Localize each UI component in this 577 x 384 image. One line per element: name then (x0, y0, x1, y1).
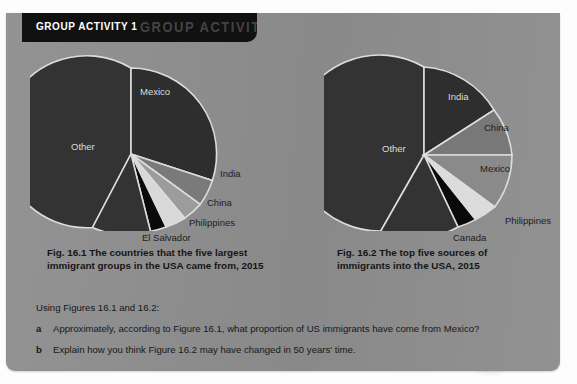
pie-label-mexico: Mexico (480, 164, 510, 174)
header-ghost-artifact: GROUP ACTIVITY (140, 18, 257, 35)
group-activity-panel: Mexico Other India China Philippines El … (6, 13, 560, 371)
pie-label-other: Other (71, 142, 95, 152)
figure-16-2: India China Mexico Other Philippines Can… (324, 41, 560, 231)
pie-chart-16-2 (324, 41, 560, 231)
figures-row: Mexico Other India China Philippines El … (6, 41, 560, 231)
pie-label-india: India (448, 92, 469, 102)
questions-intro: Using Figures 16.1 and 16.2: (36, 301, 546, 314)
question-marker-a: a (36, 322, 53, 335)
pie-chart-16-1 (30, 41, 290, 231)
pie-label-philippines: Philippines (505, 216, 551, 226)
pie-label-canada: Canada (453, 233, 486, 243)
figure-16-1: Mexico Other India China Philippines El … (30, 41, 290, 231)
book-page: Mexico Other India China Philippines El … (0, 0, 577, 384)
pie-label-philippines: Philippines (189, 218, 235, 228)
group-activity-title: GROUP ACTIVITY 1 (36, 21, 137, 32)
question-item-b: b Explain how you think Figure 16.2 may … (36, 343, 546, 356)
figure-caption-16-1: Fig. 16.1 The countries that the five la… (47, 246, 297, 273)
pie-label-india: India (220, 169, 241, 179)
figure-caption-16-2: Fig. 16.2 The top five sources of immigr… (337, 246, 552, 273)
question-text-b: Explain how you think Figure 16.2 may ha… (53, 343, 546, 356)
question-marker-b: b (36, 343, 53, 356)
pie-label-el-salvador: El Salvador (142, 233, 191, 243)
pie-label-china: China (207, 198, 232, 208)
pie-label-china: China (484, 123, 509, 133)
pie-label-other: Other (382, 144, 406, 154)
question-item-a: a Approximately, according to Figure 16.… (36, 322, 546, 335)
pie-label-mexico: Mexico (140, 87, 170, 97)
question-text-a: Approximately, according to Figure 16.1,… (53, 322, 546, 335)
activity-questions: Using Figures 16.1 and 16.2: a Approxima… (36, 301, 546, 364)
group-activity-header-tab: GROUP ACTIVITY GROUP ACTIVITY 1 (22, 13, 257, 42)
